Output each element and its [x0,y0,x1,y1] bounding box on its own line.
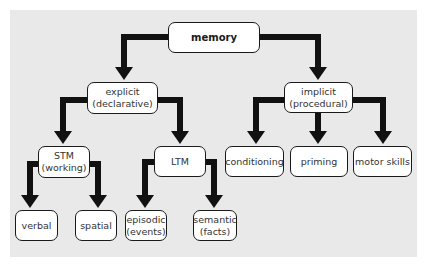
arrow-implicit-conditioning [256,100,286,132]
arrowhead-icon [309,131,327,144]
arrow-memory-explicit [124,37,170,68]
node-memory: memory [168,22,260,53]
arrowhead-icon [115,67,133,80]
node-spatial: spatial [75,210,117,241]
arrowhead-icon [89,195,107,208]
arrowhead-icon [21,195,39,208]
arrowhead-icon [54,131,72,144]
arrowhead-icon [247,131,265,144]
node-implicit: implicit(procedural) [284,82,353,113]
node-verbal: verbal [15,210,58,241]
node-priming: priming [290,146,348,177]
arrowhead-icon [171,131,189,144]
arrow-memory-implicit [258,37,318,68]
node-semantic: semantic(facts) [193,210,237,241]
arrowhead-icon [136,195,154,208]
arrow-implicit-motor-skills [351,100,383,132]
node-explicit: explicit(declarative) [87,82,158,114]
arrow-explicit-ltm [156,100,180,132]
arrowhead-icon [374,131,392,144]
arrowhead-icon [309,67,327,80]
node-conditioning: conditioning [225,146,284,177]
arrowhead-icon [205,195,223,208]
arrow-explicit-stm [63,100,89,132]
node-stm: STM(working) [38,146,90,178]
node-ltm: LTM [154,146,206,177]
node-motor-skills: motor skills [353,146,412,177]
node-episodic: episodic(events) [125,210,167,241]
